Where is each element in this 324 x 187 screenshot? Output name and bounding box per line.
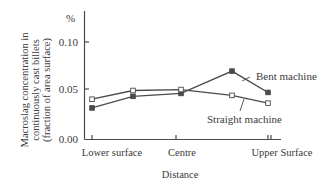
y-label-line-1: Macroslag concentration in — [19, 32, 30, 148]
open-square-marker — [266, 101, 271, 106]
y-tick-label: 0.10 — [59, 36, 79, 48]
filled-square-marker — [266, 90, 271, 95]
filled-square-marker — [131, 94, 136, 99]
annotation-straight-machine: Straight machine — [207, 113, 282, 125]
open-square-marker — [131, 88, 136, 93]
y-unit-label: % — [66, 12, 75, 24]
y-label-line-3: (fraction of area surface) — [41, 37, 53, 142]
y-tick-label: 0.00 — [59, 133, 79, 145]
annotation-pointer-straight — [240, 99, 244, 111]
x-axis-title: Distance — [162, 169, 199, 180]
x-tick-label-upper: Upper Surface — [252, 147, 313, 158]
filled-square-marker — [230, 69, 235, 74]
open-square-marker — [179, 87, 184, 92]
annotation-bent-machine: Bent machine — [256, 70, 317, 82]
open-square-marker — [230, 93, 235, 98]
series-layer — [90, 69, 271, 110]
x-tick-label-centre: Centre — [168, 147, 196, 158]
filled-square-marker — [90, 106, 95, 111]
x-tick-label-lower: Lower surface — [82, 147, 143, 158]
open-square-marker — [90, 97, 95, 102]
y-tick-label: 0.05 — [59, 83, 79, 95]
y-label-line-2: continuously cast billets — [30, 39, 41, 141]
chart: Macroslag concentration in continuously … — [0, 0, 324, 187]
y-axis-label: Macroslag concentration in continuously … — [19, 32, 53, 148]
